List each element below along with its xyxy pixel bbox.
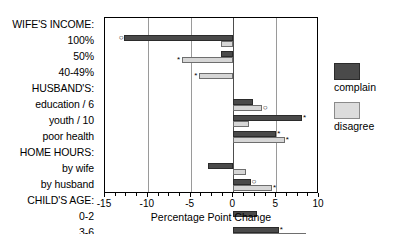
bar-row xyxy=(105,114,317,130)
bar-rows xyxy=(105,18,317,192)
bar-disagree xyxy=(233,121,248,127)
x-tick-minor xyxy=(200,193,201,196)
bar-disagree xyxy=(233,169,246,175)
significance-star-icon xyxy=(194,72,197,80)
plot-area xyxy=(104,17,318,193)
x-tick-label: 10 xyxy=(312,198,323,210)
category-label: 3-6 xyxy=(0,224,99,234)
bar-disagree xyxy=(199,73,233,79)
x-tick-minor xyxy=(307,193,308,196)
x-tick xyxy=(232,193,233,197)
category-label: 50% xyxy=(0,48,99,64)
category-label: HUSBAND'S: xyxy=(0,80,99,96)
x-tick-minor xyxy=(136,193,137,196)
category-label: education / 6 xyxy=(0,96,99,112)
bar-row xyxy=(105,82,317,98)
x-tick-label: 5 xyxy=(272,198,278,210)
x-tick-minor xyxy=(115,193,116,196)
bar-row xyxy=(105,178,317,194)
significance-circle-icon xyxy=(263,104,268,112)
bar-row xyxy=(105,162,317,178)
bar-disagree xyxy=(233,185,272,191)
legend-label-disagree: disagree xyxy=(334,120,392,133)
significance-star-icon xyxy=(303,114,306,122)
category-label: 40-49% xyxy=(0,64,99,80)
significance-star-icon xyxy=(273,184,276,192)
x-tick-minor xyxy=(158,193,159,196)
x-tick-label: -5 xyxy=(185,198,194,210)
x-tick-minor xyxy=(286,193,287,196)
x-tick xyxy=(275,193,276,197)
x-tick-minor xyxy=(168,193,169,196)
significance-circle-icon xyxy=(119,34,124,42)
significance-star-icon xyxy=(177,56,180,64)
category-axis-labels: WIFE'S INCOME:100%50%40-49%HUSBAND'S:edu… xyxy=(0,16,99,192)
bar-row xyxy=(105,98,317,114)
x-tick-minor xyxy=(222,193,223,196)
bar-row xyxy=(105,226,317,234)
bar-row xyxy=(105,66,317,82)
bar-row xyxy=(105,146,317,162)
bar-disagree xyxy=(233,137,284,143)
x-tick-label: 0 xyxy=(230,198,236,210)
category-label: 0-2 xyxy=(0,208,99,224)
bar-complain xyxy=(208,163,234,169)
category-label: HOME HOURS: xyxy=(0,144,99,160)
category-label: by husband xyxy=(0,176,99,192)
x-tick-minor xyxy=(211,193,212,196)
x-tick-minor xyxy=(297,193,298,196)
legend-swatch-complain xyxy=(334,63,360,80)
x-tick xyxy=(147,193,148,197)
x-tick xyxy=(190,193,191,197)
x-tick-minor xyxy=(243,193,244,196)
legend: complain disagree xyxy=(334,63,392,141)
legend-entry-complain: complain xyxy=(334,63,392,94)
legend-label-complain: complain xyxy=(334,81,392,94)
category-label: by wife xyxy=(0,160,99,176)
category-label: CHILD'S AGE: xyxy=(0,192,99,208)
x-tick xyxy=(104,193,105,197)
bar-complain xyxy=(124,35,234,41)
bar-disagree xyxy=(233,105,261,111)
category-label: 100% xyxy=(0,32,99,48)
x-tick-label: -15 xyxy=(97,198,111,210)
bar-disagree xyxy=(182,57,233,63)
x-tick-label: -10 xyxy=(140,198,154,210)
x-tick-minor xyxy=(265,193,266,196)
x-tick-minor xyxy=(179,193,180,196)
bar-disagree xyxy=(233,233,306,234)
bar-disagree xyxy=(221,41,234,47)
category-label: youth / 10 xyxy=(0,112,99,128)
x-axis-tick-labels: -15-10-50510 xyxy=(104,198,318,211)
bar-row xyxy=(105,130,317,146)
x-axis-title: Percentage Point Change xyxy=(104,211,318,223)
bar-row xyxy=(105,50,317,66)
bar-row xyxy=(105,18,317,34)
x-tick-minor xyxy=(254,193,255,196)
category-label: WIFE'S INCOME: xyxy=(0,16,99,32)
x-tick xyxy=(318,193,319,197)
x-tick-minor xyxy=(125,193,126,196)
legend-entry-disagree: disagree xyxy=(334,102,392,133)
significance-star-icon xyxy=(286,136,289,144)
category-label: poor health xyxy=(0,128,99,144)
legend-swatch-disagree xyxy=(334,102,360,119)
bar-row xyxy=(105,34,317,50)
